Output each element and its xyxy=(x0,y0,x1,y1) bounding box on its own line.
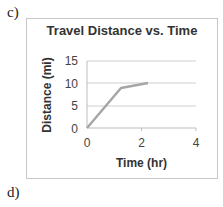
x-tick-labels: 0 2 4 xyxy=(84,136,200,150)
part-label-d: d) xyxy=(7,184,20,201)
y-axis-label: Distance (mi) xyxy=(40,57,54,132)
svg-text:5: 5 xyxy=(71,99,78,113)
line-chart: 15 10 5 0 0 2 4 Time (hr) Distance (mi) xyxy=(0,0,223,207)
x-axis-label: Time (hr) xyxy=(116,156,167,170)
svg-text:0: 0 xyxy=(84,136,91,150)
y-tick-labels: 15 10 5 0 xyxy=(65,54,79,136)
axes xyxy=(87,61,196,131)
svg-text:0: 0 xyxy=(71,122,78,136)
svg-text:15: 15 xyxy=(65,54,79,68)
svg-text:2: 2 xyxy=(138,136,145,150)
svg-text:10: 10 xyxy=(65,77,79,91)
svg-text:4: 4 xyxy=(193,136,200,150)
